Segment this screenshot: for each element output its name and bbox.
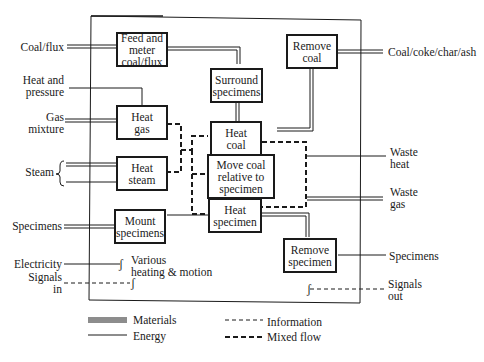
box-remove-specimen: Remove specimen xyxy=(283,238,337,273)
input-electricity: Electricity xyxy=(6,258,62,270)
box-feed-meter: Feed and meter coal/flux xyxy=(116,32,168,67)
legend-information: Information xyxy=(267,316,322,328)
box-heat-gas: Heat gas xyxy=(116,105,168,140)
box-heat-coal: Heat coal xyxy=(210,121,262,156)
note-various-heating-motion: Various heating & motion xyxy=(131,254,212,278)
input-signals-in: Signals in xyxy=(6,271,62,295)
input-gas-mixture: Gas mixture xyxy=(12,111,64,135)
svg-text:ʃ: ʃ xyxy=(130,276,136,290)
input-heat-pressure: Heat and pressure xyxy=(12,74,64,98)
output-specimens: Specimens xyxy=(389,250,439,262)
input-coal-flux: Coal/flux xyxy=(20,41,64,53)
legend-mixed-flow: Mixed flow xyxy=(267,331,321,343)
output-coal-products: Coal/coke/char/ash xyxy=(388,46,476,58)
box-surround-specimens: Surround specimens xyxy=(210,68,263,103)
box-mount-specimens: Mount specimens xyxy=(114,209,166,244)
legend-materials: Materials xyxy=(133,314,176,326)
output-signals-out: Signals out xyxy=(388,278,422,302)
box-heat-steam: Heat steam xyxy=(116,156,168,191)
input-steam: Steam xyxy=(12,166,54,178)
box-move-coal: Move coal relative to specimen xyxy=(207,154,275,199)
output-waste-gas: Waste gas xyxy=(390,186,418,210)
legend-energy: Energy xyxy=(133,330,166,342)
svg-text:ʃ: ʃ xyxy=(118,257,124,271)
input-specimens: Specimens xyxy=(6,220,62,232)
box-remove-coal: Remove coal xyxy=(286,34,338,69)
output-waste-heat: Waste heat xyxy=(390,146,418,170)
box-heat-specimen: Heat specimen xyxy=(208,198,262,233)
